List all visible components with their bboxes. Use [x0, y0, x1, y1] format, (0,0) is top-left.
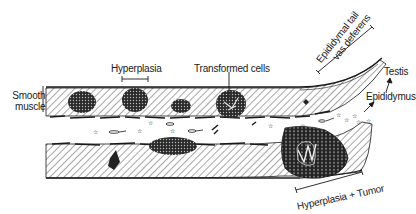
smooth-muscle-label-line2: muscle	[12, 101, 45, 112]
smooth-muscle-label: Smooth muscle	[12, 90, 45, 112]
smooth-muscle-label-line1: Smooth	[12, 90, 45, 101]
svg-text:☆: ☆	[356, 119, 361, 125]
testis-label: Testis	[384, 66, 408, 77]
transformed-cells-label: Transformed cells	[194, 63, 270, 74]
svg-text:☆: ☆	[268, 123, 273, 129]
svg-text:☆: ☆	[336, 112, 341, 118]
svg-text:☆: ☆	[148, 120, 153, 126]
svg-text:☆: ☆	[137, 128, 142, 134]
svg-text:☆: ☆	[284, 131, 289, 137]
tumor-mass	[282, 126, 349, 178]
diagram-canvas: ☆ ☆ ☆ ☆ ☆ ☆ ☆ ☆ ☆ ☆ ☆ ☆	[0, 0, 416, 214]
svg-text:☆: ☆	[170, 128, 175, 134]
svg-text:☆: ☆	[300, 123, 305, 129]
svg-text:☆: ☆	[344, 117, 349, 123]
epididymus-label: Epididymus	[366, 91, 416, 102]
svg-text:☆: ☆	[366, 118, 371, 124]
hyperplasia-label: Hyperplasia	[111, 63, 162, 74]
svg-text:☆: ☆	[93, 129, 98, 135]
